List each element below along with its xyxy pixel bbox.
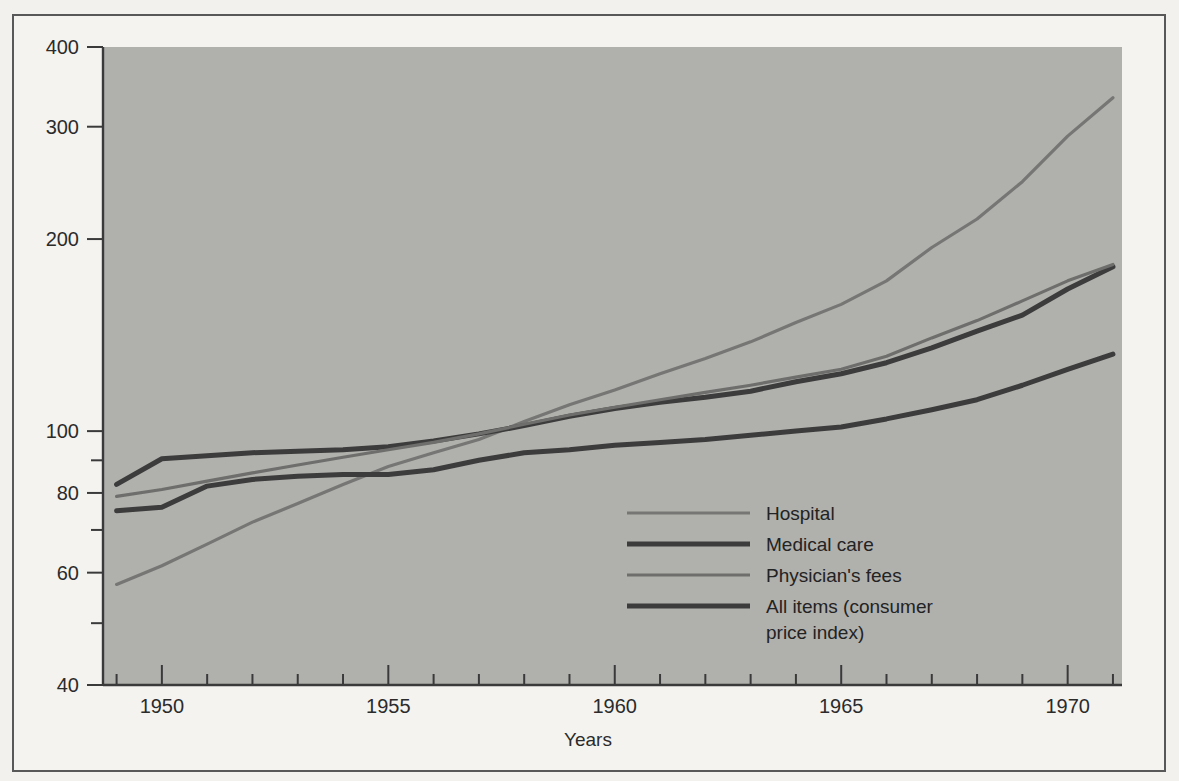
y-axis-ticks	[87, 47, 103, 685]
x-tick-label: 1965	[819, 695, 864, 717]
y-tick-label: 100	[46, 420, 79, 442]
y-tick-label: 60	[57, 562, 79, 584]
figure-frame: 400300200100806040 19501955196019651970 …	[12, 14, 1166, 772]
x-axis-title: Years	[564, 729, 612, 750]
legend-label-continued: price index)	[766, 622, 864, 643]
x-tick-label: 1960	[593, 695, 638, 717]
legend-label: Physician's fees	[766, 565, 902, 586]
y-tick-label: 200	[46, 228, 79, 250]
legend-label: Hospital	[766, 503, 835, 524]
x-axis-tick-labels: 19501955196019651970	[140, 695, 1090, 717]
y-tick-label: 80	[57, 482, 79, 504]
y-axis-tick-labels: 400300200100806040	[46, 36, 79, 696]
line-chart: 400300200100806040 19501955196019651970 …	[14, 16, 1164, 770]
plot-area-background	[103, 47, 1122, 685]
legend-label: Medical care	[766, 534, 874, 555]
x-tick-label: 1970	[1045, 695, 1090, 717]
y-tick-label: 40	[57, 674, 79, 696]
y-tick-label: 300	[46, 116, 79, 138]
legend-label: All items (consumer	[766, 596, 933, 617]
x-tick-label: 1955	[366, 695, 411, 717]
y-tick-label: 400	[46, 36, 79, 58]
x-tick-label: 1950	[140, 695, 185, 717]
figure-container: 400300200100806040 19501955196019651970 …	[0, 0, 1179, 781]
